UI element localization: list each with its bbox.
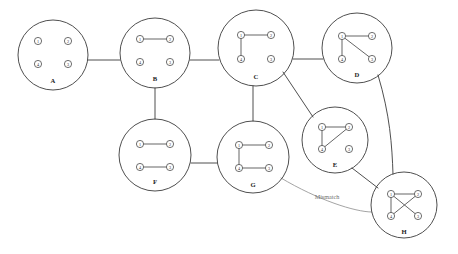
cluster-d: 1243D xyxy=(322,13,392,83)
node-label-c-2: 2 xyxy=(270,33,272,38)
cluster-label-g: G xyxy=(250,181,255,188)
node-label-h-2: 2 xyxy=(417,192,419,197)
cluster-label-d: D xyxy=(355,71,360,78)
cluster-label-a: A xyxy=(51,77,56,84)
node-label-c-3: 3 xyxy=(270,57,272,62)
node-label-b-3: 3 xyxy=(169,60,171,65)
edge-e-2-4 xyxy=(322,127,349,149)
node-label-f-1: 1 xyxy=(139,142,141,147)
edge-labels-layer: Mismatch xyxy=(315,193,341,200)
cluster-label-c: C xyxy=(254,73,259,80)
mismatch-edge-label: Mismatch xyxy=(315,193,341,200)
cluster-label-h: H xyxy=(401,228,407,235)
node-label-d-2: 2 xyxy=(371,34,373,39)
node-label-h-1: 1 xyxy=(390,192,392,197)
node-label-a-1: 1 xyxy=(37,39,39,44)
cluster-label-b: B xyxy=(153,75,158,82)
edge-d-1-3 xyxy=(342,36,372,59)
cluster-g: 1243G xyxy=(217,121,289,193)
cluster-h: 1243H xyxy=(371,172,437,238)
node-label-g-3: 3 xyxy=(268,166,270,171)
cluster-c: 1243C xyxy=(218,10,294,86)
node-label-d-1: 1 xyxy=(341,34,343,39)
cluster-label-e: E xyxy=(333,161,338,168)
node-label-g-1: 1 xyxy=(238,143,240,148)
node-label-d-3: 3 xyxy=(371,57,373,62)
diagram-canvas: 1243A1243B1243C1243D1243E1243F1243G1243H… xyxy=(0,0,458,254)
node-label-g-2: 2 xyxy=(268,143,270,148)
node-label-c-1: 1 xyxy=(240,33,242,38)
cluster-link-d-h xyxy=(378,75,393,174)
node-label-f-2: 2 xyxy=(169,142,171,147)
cluster-diagram: 1243A1243B1243C1243D1243E1243F1243G1243H… xyxy=(0,0,458,254)
cluster-link-c-e xyxy=(283,72,313,117)
node-label-e-3: 3 xyxy=(348,147,350,152)
clusters-layer: 1243A1243B1243C1243D1243E1243F1243G1243H xyxy=(18,10,437,238)
cluster-e: 1243E xyxy=(302,107,368,173)
node-label-h-3: 3 xyxy=(417,214,419,219)
node-label-a-2: 2 xyxy=(67,39,69,44)
node-label-a-3: 3 xyxy=(67,62,69,67)
cluster-a: 1243A xyxy=(18,20,88,90)
node-label-e-2: 2 xyxy=(348,125,350,130)
node-label-b-1: 1 xyxy=(139,37,141,42)
cluster-link-e-h xyxy=(352,168,378,188)
node-label-e-1: 1 xyxy=(321,125,323,130)
node-label-b-2: 2 xyxy=(169,37,171,42)
cluster-label-f: F xyxy=(153,178,157,185)
cluster-b: 1243B xyxy=(120,18,190,88)
node-label-f-3: 3 xyxy=(169,165,171,170)
cluster-f: 1243F xyxy=(119,119,191,191)
